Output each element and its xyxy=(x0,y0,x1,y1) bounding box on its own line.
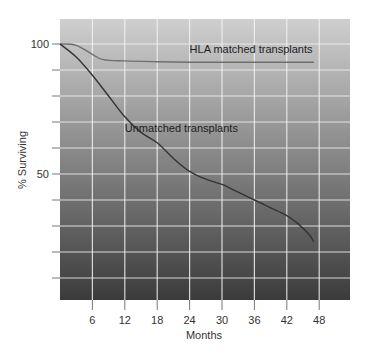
plot-area xyxy=(60,19,350,300)
y-tick-label: 50 xyxy=(37,168,49,180)
x-tick-label: 36 xyxy=(248,314,260,326)
unmatched-label: Unmatched transplants xyxy=(125,122,239,134)
x-tick-label: 6 xyxy=(89,314,95,326)
survival-chart: HLA matched transplantsUnmatched transpl… xyxy=(0,0,366,359)
x-tick-label: 42 xyxy=(281,314,293,326)
hla-matched-label: HLA matched transplants xyxy=(190,43,313,55)
x-tick-label: 48 xyxy=(313,314,325,326)
x-tick-label: 12 xyxy=(119,314,131,326)
x-axis-title: Months xyxy=(186,329,223,341)
x-tick-label: 18 xyxy=(151,314,163,326)
x-tick-label: 24 xyxy=(183,314,195,326)
y-axis-title: % Surviving xyxy=(16,131,28,189)
y-tick-label: 100 xyxy=(31,38,49,50)
x-tick-label: 30 xyxy=(216,314,228,326)
